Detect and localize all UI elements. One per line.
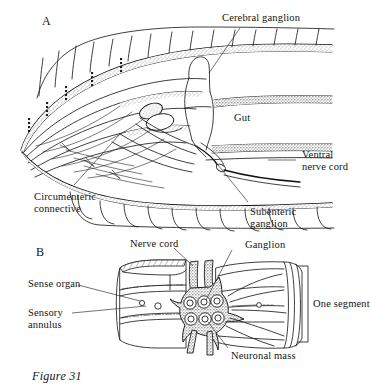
label-sense-organ: Sense organ [28,278,81,290]
label-gut: Gut [234,112,250,124]
label-circumenteric-connective-line2: connective [34,203,81,215]
pharynx-column [185,57,214,157]
label-one-segment: One segment [313,298,370,310]
neuronal-mass [198,296,210,308]
label-sensory-annulus-line2: annulus [28,319,62,331]
ventral-strands [60,143,164,188]
label-ventral-nerve-cord-line1: Ventral [302,149,333,161]
label-nerve-cord: Nerve cord [130,238,178,250]
label-ganglion: Ganglion [245,239,285,251]
neuronal-mass [211,295,223,307]
label-cerebral-ganglion: Cerebral ganglion [222,12,300,24]
label-neuronal-mass: Neuronal mass [231,350,296,362]
panel-letter-a: A [42,14,51,29]
neuronal-mass [212,312,224,324]
label-circumenteric-connective-line1: Circumenteric [34,191,96,203]
figure-caption: Figure 31 [32,369,82,384]
label-subenteric-ganglion-line1: Subenteric [250,206,296,218]
segmental-nerves [226,274,286,346]
leader-circumenteric-connective [74,134,120,185]
label-sensory-annulus-line1: Sensory [28,307,63,319]
sense-organ-pore-2 [155,303,161,309]
label-ventral-nerve-cord-line2: nerve cord [302,161,348,173]
ganglion-shape [170,277,244,355]
panel-b-artwork [72,248,308,355]
neuronal-mass [184,297,196,309]
neuronal-mass [185,313,197,325]
sense-organ-pore-1 [139,300,144,305]
leader-subenteric-ganglion [214,160,248,202]
panel-letter-b: B [36,245,44,260]
ventral-nerve-cord-shape [224,170,300,187]
leader-sensory-annulus [72,306,146,313]
label-subenteric-ganglion-line2: ganglion [250,218,288,230]
